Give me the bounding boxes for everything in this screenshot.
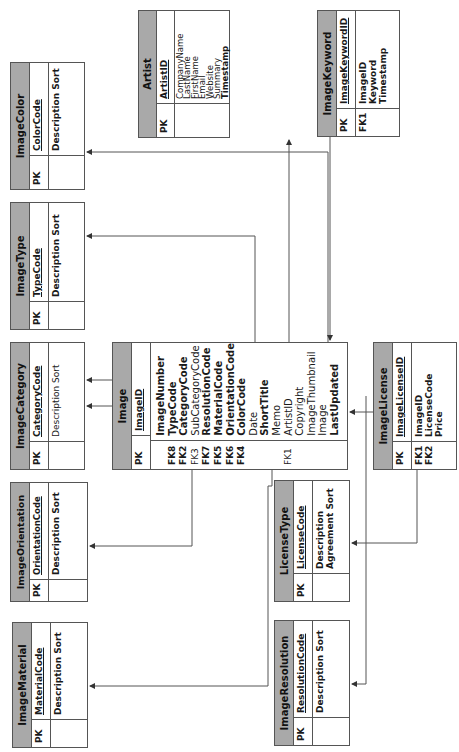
entity-title: ImageMaterial bbox=[13, 623, 32, 747]
entity-title: ImageColor bbox=[11, 63, 30, 189]
pk-label: PK bbox=[30, 441, 48, 469]
fk-label: FK8 bbox=[167, 441, 179, 465]
attribute: ResolutionCode bbox=[201, 343, 213, 436]
entity-title: ImageType bbox=[11, 203, 30, 329]
attribute: Copyright bbox=[294, 343, 306, 436]
pk-label: PK bbox=[30, 579, 48, 601]
primary-key: ResolutionCode bbox=[294, 634, 312, 717]
pk-label: PK bbox=[157, 103, 174, 137]
attribute: OrientationCode bbox=[225, 343, 237, 436]
pk-label: PK bbox=[337, 108, 355, 136]
pk-label: PK bbox=[30, 301, 48, 329]
entity-license-type[interactable]: LicenseType PK LicenseCode Description A… bbox=[274, 480, 350, 602]
pk-label: PK bbox=[294, 573, 312, 601]
rel-imagelicense-licensetype bbox=[352, 470, 417, 543]
attribute: LastUpdated bbox=[329, 343, 341, 436]
rel-image-imagematerial bbox=[90, 470, 272, 686]
attribute: Description Sort bbox=[51, 492, 61, 575]
fk-label: FK6 bbox=[225, 441, 237, 465]
primary-key: ArtistID bbox=[157, 60, 174, 103]
primary-key: ImageID bbox=[132, 389, 150, 435]
entity-title: LicenseType bbox=[275, 481, 294, 601]
entity-title: ImageLicense bbox=[374, 343, 393, 469]
pk-label: PK bbox=[294, 717, 312, 745]
entity-title: Artist bbox=[139, 11, 157, 137]
pk-label: PK bbox=[32, 719, 50, 747]
entity-artist[interactable]: Artist PK ArtistID CompanyName LastName … bbox=[138, 10, 230, 138]
fk-label: FK5 bbox=[213, 441, 225, 465]
primary-key: MaterialCode bbox=[32, 648, 50, 719]
attribute: Description Sort bbox=[51, 68, 61, 151]
attribute: Description Sort bbox=[51, 214, 61, 297]
fk-label: FK1 bbox=[358, 109, 368, 132]
primary-key: ImageKeywordID bbox=[337, 18, 355, 108]
entity-title: ImageKeyword bbox=[318, 11, 337, 136]
attribute: Agreement Sort bbox=[325, 488, 335, 569]
attribute: LicenseCode bbox=[424, 374, 434, 437]
attribute: ArtistID bbox=[283, 343, 295, 436]
pk-label: PK bbox=[132, 435, 150, 469]
primary-key: ColorCode bbox=[30, 99, 48, 155]
rel-image-imageorientation bbox=[90, 470, 192, 546]
pk-label: PK bbox=[30, 155, 48, 189]
entity-image[interactable]: Image PK ImageID FK8 FK2 FK3 FK7 FK5 FK6… bbox=[112, 342, 348, 470]
attribute: Description bbox=[315, 488, 325, 569]
primary-key: LicenseCode bbox=[294, 506, 312, 573]
attribute: Image bbox=[317, 343, 329, 436]
attribute: Price bbox=[434, 374, 444, 437]
fk-label: FK2 bbox=[424, 442, 434, 465]
fk-label: FK1 bbox=[414, 442, 424, 465]
er-diagram: ImageColor PK ColorCode Description Sort… bbox=[0, 0, 459, 752]
attribute: ImageID bbox=[358, 48, 368, 104]
entity-title: Image bbox=[113, 343, 132, 469]
fk-label: FK2 bbox=[178, 441, 190, 465]
fk-label: FK3 bbox=[190, 441, 202, 465]
primary-key: TypeCode bbox=[30, 248, 48, 301]
attribute: Timestamp bbox=[378, 48, 388, 104]
attribute: Keyword bbox=[368, 48, 378, 104]
attribute: Timestamp bbox=[222, 33, 230, 99]
entity-image-orientation[interactable]: ImageOrientation PK OrientationCode Desc… bbox=[10, 482, 88, 602]
attribute: TypeCode bbox=[167, 343, 179, 436]
attribute: ColorCode bbox=[236, 343, 248, 436]
entity-image-material[interactable]: ImageMaterial PK MaterialCode Descriptio… bbox=[12, 622, 88, 748]
rel-image-imagecolor bbox=[87, 152, 328, 342]
entity-title: ImageCategory bbox=[11, 343, 30, 469]
entity-title: ImageResolution bbox=[275, 621, 294, 745]
attribute: Description Sort bbox=[53, 632, 63, 715]
attribute: ImageThumbnail bbox=[306, 343, 318, 436]
rel-image-imagetype bbox=[87, 236, 255, 342]
primary-key: CategoryCode bbox=[30, 366, 48, 441]
attribute: Description Sort bbox=[315, 630, 325, 713]
attribute: ImageNumber bbox=[155, 343, 167, 436]
entity-image-type[interactable]: ImageType PK TypeCode Description Sort bbox=[10, 202, 85, 330]
entity-image-resolution[interactable]: ImageResolution PK ResolutionCode Descri… bbox=[274, 620, 350, 746]
attribute: ImageID bbox=[414, 374, 424, 437]
attribute: ShortTitle bbox=[259, 343, 271, 436]
attribute: CategoryCode bbox=[178, 343, 190, 436]
fk-label: FK4 bbox=[236, 441, 248, 465]
entity-title: ImageOrientation bbox=[11, 483, 30, 601]
attribute: MaterialCode bbox=[213, 343, 225, 436]
entity-image-color[interactable]: ImageColor PK ColorCode Description Sort bbox=[10, 62, 85, 190]
fk-label: FK7 bbox=[201, 441, 213, 465]
entity-image-category[interactable]: ImageCategory PK CategoryCode Descriptio… bbox=[10, 342, 85, 470]
attribute: Description Sort bbox=[51, 364, 61, 437]
entity-image-license[interactable]: ImageLicense PK ImageLicenseID FK1 FK2 I… bbox=[373, 342, 457, 470]
attribute: Memo bbox=[271, 343, 283, 436]
primary-key: OrientationCode bbox=[30, 496, 48, 579]
pk-label: PK bbox=[393, 441, 411, 469]
entity-image-keyword[interactable]: ImageKeyword PK ImageKeywordID FK1 Image… bbox=[317, 10, 400, 137]
primary-key: ImageLicenseID bbox=[393, 357, 411, 441]
attribute: Date bbox=[248, 343, 260, 436]
fk-label: FK1 bbox=[283, 441, 295, 465]
attribute: SubCategoryCode bbox=[190, 343, 202, 436]
rel-image-imageresolution bbox=[352, 396, 366, 684]
